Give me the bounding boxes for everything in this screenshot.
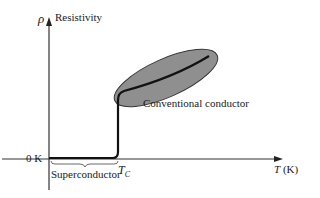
critical-temp-subscript: C [125, 170, 130, 179]
conventional-conductor-label: Conventional conductor [143, 98, 249, 109]
y-axis-symbol: ρ [38, 12, 44, 25]
x-axis-unit: (K) [283, 163, 298, 175]
x-axis-symbol: T [274, 163, 280, 175]
origin-label: 0 K [26, 153, 42, 164]
y-axis-arrow-icon [46, 17, 52, 26]
superconductor-label: Superconductor [51, 169, 121, 180]
y-axis-label: Resistivity [55, 12, 102, 23]
superconductor-brace [51, 161, 118, 167]
x-axis-label: T (K) [274, 164, 298, 175]
x-axis-arrow-icon [274, 156, 283, 162]
